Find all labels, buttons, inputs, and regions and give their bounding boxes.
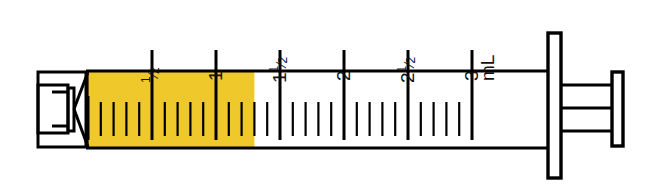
finger-flange [548,33,561,178]
unit-label-ml: mL [478,55,497,81]
scale-label: 2 [334,70,353,81]
thumb-rest [612,72,623,146]
scale-label: 1⁄2 [140,67,161,83]
scale-label: 21⁄2 [396,57,417,83]
scale-label: 1 [206,70,225,81]
syringe-drawing [0,0,645,192]
luer-tip [38,72,88,147]
scale-label: 11⁄2 [268,57,289,83]
syringe-figure: 1⁄2111⁄2221⁄23 mL [0,0,645,192]
